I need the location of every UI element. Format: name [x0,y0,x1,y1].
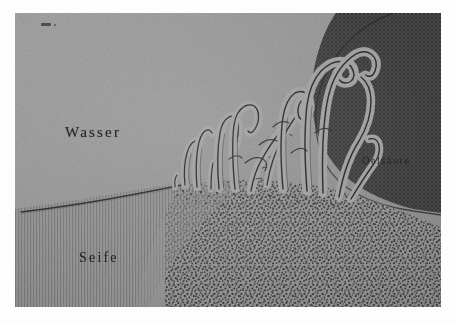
engraving-plate: Wasser Seife Oelsäure [15,13,441,307]
label-oelsaeure: Oelsäure [362,155,411,166]
label-wasser: Wasser [65,124,121,141]
label-seife: Seife [79,250,119,266]
plate-figure-mark-dot [54,24,56,26]
plate-figure-mark [41,23,51,26]
myelin-tube [175,175,177,187]
myelin-tube [211,163,213,189]
figure-plate-container: Wasser Seife Oelsäure [0,0,457,323]
